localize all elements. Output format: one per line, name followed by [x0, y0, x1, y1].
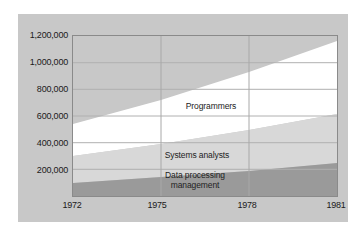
- y-axis-tick-label: 800,000: [0, 84, 68, 94]
- chart-figure: 1,200,000 1,000,000 800,000 600,000 400,…: [0, 0, 362, 239]
- y-axis-tick-label: 600,000: [0, 111, 68, 121]
- y-axis-tick-label: 400,000: [0, 138, 68, 148]
- series-label-data-processing-management: Data processing management: [140, 170, 250, 190]
- y-axis-tick-label: 200,000: [0, 165, 68, 175]
- x-axis-tick-label: 1972: [50, 200, 94, 210]
- x-axis-tick-label: 1978: [225, 200, 269, 210]
- y-axis-tick-label: 1,000,000: [0, 57, 68, 67]
- y-axis-tick-label: 1,200,000: [0, 30, 68, 40]
- x-axis-tick-label: 1975: [135, 200, 179, 210]
- series-label-programmers: Programmers: [166, 101, 256, 111]
- x-axis-tick-label: 1981: [314, 200, 358, 210]
- series-label-systems-analysts: Systems analysts: [147, 150, 247, 160]
